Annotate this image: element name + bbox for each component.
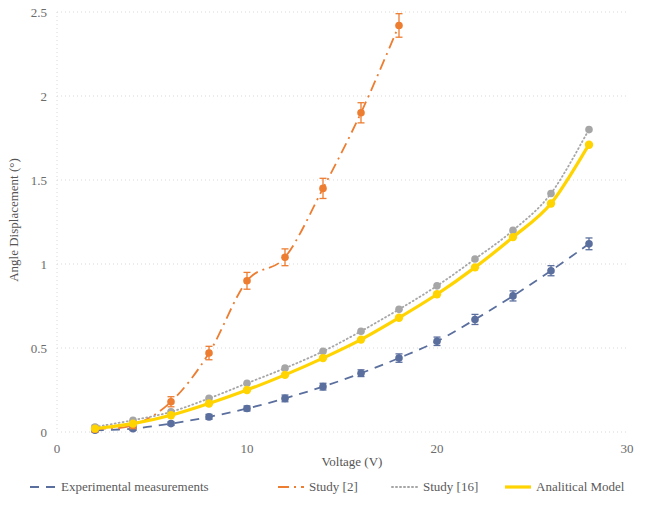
data-point — [243, 386, 251, 394]
data-point — [471, 255, 479, 263]
data-point — [395, 22, 403, 30]
data-point — [357, 327, 365, 335]
data-point — [433, 337, 441, 345]
data-point — [243, 277, 251, 285]
y-tick-label: 2.5 — [31, 5, 47, 20]
data-point — [547, 267, 555, 275]
data-point — [205, 399, 213, 407]
data-point — [395, 314, 403, 322]
data-point — [585, 126, 593, 134]
line-chart-svg: 00.511.522.5 0102030 Voltage (V) Angle D… — [0, 0, 645, 510]
data-point — [319, 383, 327, 391]
data-point — [433, 282, 441, 290]
data-point — [547, 199, 555, 207]
y-tick-label: 0 — [41, 425, 48, 440]
x-axis-title: Voltage (V) — [322, 454, 383, 469]
legend-label-1: Experimental measurements — [61, 479, 209, 494]
data-point — [281, 371, 289, 379]
data-point — [91, 424, 99, 432]
data-point — [357, 109, 365, 117]
data-point — [357, 335, 365, 343]
y-tick-label: 1.5 — [31, 173, 47, 188]
data-point — [243, 405, 251, 413]
data-point — [547, 190, 555, 198]
data-point — [167, 420, 175, 428]
data-point — [471, 263, 479, 271]
data-point — [281, 395, 289, 403]
y-axis-title: Angle Displacement (°) — [6, 158, 21, 282]
y-tick-label: 1 — [41, 257, 48, 272]
data-point — [433, 290, 441, 298]
data-point — [509, 292, 517, 300]
y-tick-label: 2 — [41, 89, 48, 104]
data-point — [357, 369, 365, 377]
data-point — [585, 240, 593, 248]
chart-figure: 00.511.522.5 0102030 Voltage (V) Angle D… — [0, 0, 645, 510]
legend-label-4: Analitical Model — [536, 479, 625, 494]
data-point — [281, 253, 289, 261]
x-tick-label: 30 — [621, 441, 634, 456]
legend-label-3: Study [16] — [423, 479, 478, 494]
data-point — [167, 411, 175, 419]
data-point — [319, 185, 327, 193]
data-point — [395, 306, 403, 314]
x-tick-label: 20 — [431, 441, 444, 456]
x-tick-label: 10 — [241, 441, 254, 456]
data-point — [585, 141, 593, 149]
data-point — [319, 354, 327, 362]
data-point — [395, 354, 403, 362]
legend-label-2: Study [2] — [309, 479, 358, 494]
data-point — [509, 233, 517, 241]
y-tick-label: 0.5 — [31, 341, 47, 356]
data-point — [471, 316, 479, 324]
data-point — [129, 419, 137, 427]
data-point — [205, 413, 213, 421]
x-tick-label: 0 — [54, 441, 61, 456]
data-point — [205, 349, 213, 357]
data-point — [167, 398, 175, 406]
chart-legend: Experimental measurementsStudy [2]Study … — [30, 479, 625, 494]
